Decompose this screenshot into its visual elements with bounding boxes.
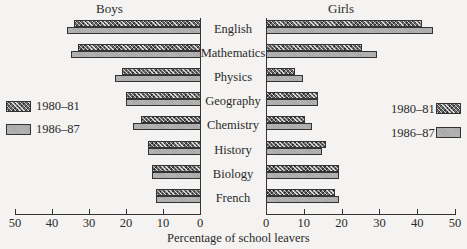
tick	[342, 209, 343, 214]
subject-label: Chemistry	[198, 118, 268, 133]
boys-bar	[122, 68, 201, 75]
boys-bar	[152, 165, 201, 172]
tick	[417, 209, 418, 214]
tick	[200, 209, 201, 214]
boys-bar	[74, 20, 201, 27]
tick-label: 0	[188, 216, 212, 231]
girls-bar	[266, 165, 339, 172]
subject-label: Geography	[198, 94, 268, 109]
boys-bar	[133, 123, 201, 130]
boys-bar	[152, 172, 201, 179]
boys-bar	[115, 75, 201, 82]
tick-label: 10	[151, 216, 175, 231]
girls-bar	[266, 51, 377, 58]
boys-x-axis	[15, 214, 201, 215]
girls-x-axis	[266, 214, 456, 215]
girls-bar	[266, 20, 422, 27]
tick-label: 0	[254, 216, 278, 231]
tick	[126, 209, 127, 214]
boys-panel-title: Boys	[96, 1, 123, 17]
girls-bar	[266, 148, 322, 155]
tick-label: 50	[443, 216, 467, 231]
girls-bar	[266, 141, 326, 148]
tick-label: 40	[405, 216, 429, 231]
subject-label: Biology	[198, 167, 268, 182]
girls-bar	[266, 172, 339, 179]
subject-label: French	[198, 191, 268, 206]
boys-bar	[71, 51, 202, 58]
legend-label-1980-right: 1980–81	[391, 102, 435, 117]
girls-bar	[266, 27, 433, 34]
girls-bar	[266, 116, 305, 123]
tick-label: 30	[77, 216, 101, 231]
girls-bar	[266, 99, 318, 106]
subject-label: Mathematics	[198, 46, 268, 61]
tick	[266, 209, 267, 214]
boys-bar	[148, 141, 201, 148]
tick	[89, 209, 90, 214]
boys-bar	[67, 27, 201, 34]
boys-bar	[126, 92, 201, 99]
x-axis-label: Percentage of school leavers	[167, 231, 310, 246]
legend-label-1980: 1980–81	[36, 99, 80, 114]
girls-bar	[266, 196, 339, 203]
legend-swatch-1980	[6, 101, 31, 112]
tick-label: 20	[330, 216, 354, 231]
tick	[52, 209, 53, 214]
girls-bar	[266, 75, 303, 82]
girls-zero-line	[266, 18, 267, 214]
tick-label: 50	[3, 216, 27, 231]
girls-bar	[266, 44, 362, 51]
tick	[379, 209, 380, 214]
boys-zero-line	[200, 18, 201, 214]
legend-swatch-1986-right	[436, 127, 461, 138]
boys-bar	[141, 116, 201, 123]
tick-label: 30	[367, 216, 391, 231]
subject-label: Physics	[198, 70, 268, 85]
boys-bar	[126, 99, 201, 106]
tick	[455, 209, 456, 214]
tick-label: 10	[292, 216, 316, 231]
tick-label: 20	[114, 216, 138, 231]
legend-swatch-1980-right	[436, 103, 461, 114]
legend-label-1986: 1986–87	[36, 122, 80, 137]
butterfly-bar-chart: Boys Girls EnglishMathematicsPhysicsGeog…	[0, 0, 467, 249]
boys-bar	[156, 189, 201, 196]
subject-label: English	[198, 22, 268, 37]
girls-panel-title: Girls	[328, 1, 354, 17]
subject-label: History	[198, 143, 268, 158]
tick	[304, 209, 305, 214]
tick	[15, 209, 16, 214]
tick-label: 40	[40, 216, 64, 231]
boys-bar	[148, 148, 201, 155]
boys-bar	[156, 196, 201, 203]
girls-bar	[266, 189, 335, 196]
tick	[163, 209, 164, 214]
boys-bar	[78, 44, 201, 51]
legend-swatch-1986	[6, 124, 31, 135]
girls-bar	[266, 68, 295, 75]
girls-bar	[266, 123, 312, 130]
girls-bar	[266, 92, 318, 99]
legend-label-1986-right: 1986–87	[391, 126, 435, 141]
